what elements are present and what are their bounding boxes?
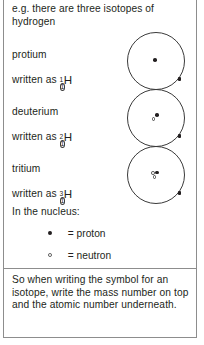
electron-icon (178, 134, 181, 137)
electron-icon (178, 77, 181, 80)
left-border-rule (3, 0, 4, 338)
written-as-text-tritium: written as (12, 188, 57, 199)
proton-icon (155, 113, 159, 117)
bottom-border-rule (3, 337, 197, 338)
atom-diagram-deuterium (127, 89, 185, 147)
legend-row-proton: = proton (48, 228, 105, 241)
isotope-name-protium: protium (12, 49, 112, 62)
isotope-symbol-deuterium: written as 21H (12, 131, 112, 144)
atom-diagram-tritium (127, 146, 185, 204)
element-symbol-tritium: H (64, 187, 72, 200)
proton-icon (153, 58, 157, 62)
nuclide-numbers-protium: 11 (60, 77, 64, 83)
legend-label-neutron: = neutron (68, 250, 111, 263)
electron-icon (178, 191, 181, 194)
filled-dot-icon (48, 231, 52, 235)
closing-paragraph: So when writing the symbol for an isotop… (12, 274, 190, 312)
element-symbol-protium: H (64, 73, 72, 86)
isotopes-figure: e.g. there are three isotopes of hydroge… (0, 0, 204, 345)
written-as-text-deuterium: written as (12, 131, 57, 142)
isotope-symbol-protium: written as 11H (12, 74, 112, 87)
legend-label-proton: = proton (68, 228, 106, 241)
nuclide-numbers-tritium: 31 (60, 191, 64, 197)
proton-icon (155, 171, 159, 175)
isotope-label-protium: protium written as 11H (12, 36, 112, 99)
section-divider-rule (3, 268, 197, 269)
written-as-text-protium: written as (12, 74, 57, 85)
nuclide-numbers-deuterium: 21 (60, 134, 64, 140)
atomic-number-tritium: 1 (60, 197, 66, 205)
intro-paragraph: e.g. there are three isotopes of hydroge… (12, 3, 162, 28)
mass-number-deuterium: 2 (60, 134, 64, 140)
neutron-icon (153, 175, 157, 179)
legend-row-neutron: = neutron (48, 250, 111, 263)
atomic-number-protium: 1 (60, 83, 66, 91)
isotope-name-tritium: tritium (12, 163, 112, 176)
hollow-dot-icon (48, 253, 52, 257)
atomic-number-deuterium: 1 (60, 140, 66, 148)
atom-diagram-protium (127, 32, 185, 90)
isotope-symbol-tritium: written as 31H (12, 188, 112, 201)
neutron-icon (152, 117, 156, 121)
mass-number-tritium: 3 (60, 191, 64, 197)
mass-number-protium: 1 (60, 77, 64, 83)
isotope-label-tritium: tritium written as 31H (12, 150, 112, 213)
element-symbol-deuterium: H (64, 130, 72, 143)
isotope-name-deuterium: deuterium (12, 106, 112, 119)
isotope-label-deuterium: deuterium written as 21H (12, 93, 112, 156)
nucleus-legend-heading: In the nucleus: (12, 206, 132, 219)
right-border-rule (196, 0, 197, 338)
